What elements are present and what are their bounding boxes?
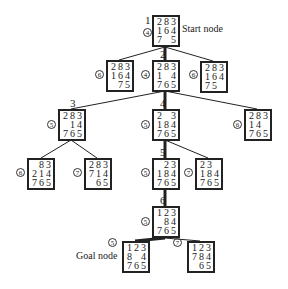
tile-grid: 123 84765 <box>156 208 177 235</box>
expansion-order-label: 5 <box>160 147 166 158</box>
tile: 1 <box>156 208 163 217</box>
puzzle-state-node: 283714 65 <box>84 158 112 190</box>
tile: 5 <box>262 129 269 138</box>
puzzle-state-node: 2 3184765 <box>152 109 180 141</box>
tile: 5 <box>102 178 109 187</box>
expansion-order-label: 2 <box>160 49 166 60</box>
tile: 6 <box>198 261 205 270</box>
expansion-order-label: 4 <box>160 98 166 109</box>
tree-edge <box>41 140 71 158</box>
tile: 7 <box>156 35 163 44</box>
tile: 5 <box>205 261 212 270</box>
tree-edge <box>71 91 165 109</box>
tile: 3 <box>262 111 269 120</box>
heuristic-cost-badge: 7 <box>173 238 182 247</box>
tile: 6 <box>163 178 170 187</box>
expansion-order-label: 1 <box>145 15 151 26</box>
tile <box>88 178 95 187</box>
tile: 7 <box>191 252 198 261</box>
tile-grid: 2831 4765 <box>156 62 177 89</box>
tree-edge <box>119 47 165 60</box>
tile: 7 <box>199 178 206 187</box>
tile-grid: 283164 75 <box>110 62 131 89</box>
puzzle-state-node: 2831 4765 <box>152 60 180 92</box>
tile-grid: 283714 65 <box>88 160 109 187</box>
tile-grid: 28314 765 <box>248 111 269 138</box>
puzzle-state-node: 123784 65 <box>187 241 215 273</box>
tile: 5 <box>140 261 147 270</box>
expansion-order-label: 3 <box>70 98 76 109</box>
tile: 5 <box>170 80 177 89</box>
heuristic-cost-badge: 5 <box>141 120 150 129</box>
puzzle-state-node: 23 184765 <box>195 158 223 190</box>
tile: 5 <box>45 178 52 187</box>
tile <box>110 80 117 89</box>
heuristic-cost-badge: 5 <box>108 238 117 247</box>
tree-edge <box>165 140 208 158</box>
heuristic-cost-badge: 6 <box>189 70 198 79</box>
tile: 7 <box>204 81 211 90</box>
tile: 7 <box>248 129 255 138</box>
tile: 2 <box>62 111 69 120</box>
tile-grid: 28316475 <box>204 63 225 90</box>
tile <box>163 35 170 44</box>
tile: 5 <box>170 35 177 44</box>
search-tree-diagram: 2831647 541283164 7562831 47654228316475… <box>0 0 288 289</box>
tile-grid: 123784 65 <box>191 243 212 270</box>
tile: 7 <box>31 178 38 187</box>
start-node-label: Start node <box>182 23 223 34</box>
expansion-order-label: 6 <box>160 195 166 206</box>
tile-grid: 283 14765 <box>62 111 83 138</box>
puzzle-state-node: 23184765 <box>152 158 180 190</box>
tile: 6 <box>95 178 102 187</box>
tile-grid: 2 3184765 <box>156 111 177 138</box>
tile: 5 <box>76 129 83 138</box>
heuristic-cost-badge: 5 <box>47 120 56 129</box>
tile-grid: 2831647 5 <box>156 17 177 44</box>
tile: 4 <box>218 72 225 81</box>
tree-edge <box>71 140 97 158</box>
tile <box>218 81 225 90</box>
tile <box>191 261 198 270</box>
tile: 5 <box>170 178 177 187</box>
tile: 7 <box>62 129 69 138</box>
tile: 6 <box>163 80 170 89</box>
heuristic-cost-badge: 4 <box>141 70 150 79</box>
heuristic-cost-badge: 6 <box>233 120 242 129</box>
tree-edge <box>165 91 257 109</box>
tile: 6 <box>163 226 170 235</box>
tile-grid: 83214765 <box>31 160 52 187</box>
tile: 2 <box>133 243 140 252</box>
heuristic-cost-badge: 6 <box>95 70 104 79</box>
tile: 5 <box>213 178 220 187</box>
tile: 7 <box>156 178 163 187</box>
tile: 5 <box>124 80 131 89</box>
tree-edge <box>165 47 213 61</box>
tile: 6 <box>163 26 170 35</box>
heuristic-cost-badge: 6 <box>16 168 25 177</box>
tile: 5 <box>170 129 177 138</box>
tile: 6 <box>255 129 262 138</box>
puzzle-state-node: 83214765 <box>27 158 55 190</box>
tile: 7 <box>156 129 163 138</box>
tile: 6 <box>69 129 76 138</box>
puzzle-state-node: 123 84765 <box>152 206 180 238</box>
tile: 6 <box>133 261 140 270</box>
puzzle-state-node: 28314 765 <box>244 109 272 141</box>
tile-grid: 23 184765 <box>199 160 220 187</box>
tile: 5 <box>170 226 177 235</box>
tile: 1 <box>110 71 117 80</box>
puzzle-state-node: 283 14765 <box>58 109 86 141</box>
puzzle-state-node: 2831647 5 <box>152 15 180 47</box>
puzzle-state-node: 28316475 <box>200 61 228 93</box>
tile: 7 <box>156 226 163 235</box>
heuristic-cost-badge: 5 <box>141 217 150 226</box>
tile-grid: 1238 4765 <box>126 243 147 270</box>
tile: 6 <box>163 129 170 138</box>
tile: 8 <box>163 62 170 71</box>
puzzle-state-node: 1238 4765 <box>122 241 150 273</box>
puzzle-state-node: 283164 75 <box>106 60 134 92</box>
heuristic-cost-badge: 4 <box>143 28 152 37</box>
tile: 7 <box>126 261 133 270</box>
tile: 5 <box>211 81 218 90</box>
